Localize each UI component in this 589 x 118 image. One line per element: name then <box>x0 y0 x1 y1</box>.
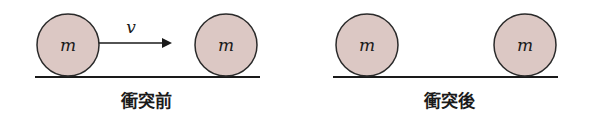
mass-label: m <box>359 35 375 55</box>
after-collision-panel: m m 衝突後 <box>333 14 558 111</box>
mass-label: m <box>517 35 533 55</box>
caption-after: 衝突後 <box>423 91 476 111</box>
before-collision-panel: m v m 衝突前 <box>35 14 260 111</box>
mass-label: m <box>60 35 76 55</box>
caption-before: 衝突前 <box>120 91 172 111</box>
mass-label: m <box>218 35 234 55</box>
velocity-label: v <box>126 17 136 37</box>
collision-diagram: m v m 衝突前 m m 衝突後 <box>0 0 589 118</box>
